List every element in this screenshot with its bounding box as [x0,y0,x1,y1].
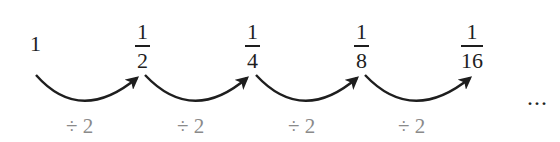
operation-label-1: ÷ 2 [66,114,93,139]
fraction-bar [135,45,150,47]
operation-label-4: ÷ 2 [398,114,425,139]
term-value: 1 [30,31,41,56]
term-fraction-eighth: 1 8 [354,21,369,72]
continuation-ellipsis: ... [527,84,548,111]
denominator: 4 [247,50,258,72]
denominator: 2 [137,50,148,72]
denominator: 16 [461,50,483,72]
fraction-bar [354,45,369,47]
numerator: 1 [465,21,480,43]
denominator: 8 [356,50,367,72]
term-1: 1 [30,33,41,55]
term-fraction-sixteenth: 1 16 [461,21,483,72]
arrow-1 [36,75,137,101]
arrow-2 [145,75,247,101]
term-fraction-quarter: 1 4 [245,21,260,72]
fraction-bar [461,45,483,47]
numerator: 1 [245,21,260,43]
numerator: 1 [354,21,369,43]
operation-label-2: ÷ 2 [177,114,204,139]
numerator: 1 [135,21,150,43]
arrow-4 [365,75,470,101]
fraction-bar [245,45,260,47]
term-fraction-half: 1 2 [135,21,150,72]
arrow-3 [256,75,357,101]
operation-label-3: ÷ 2 [288,114,315,139]
